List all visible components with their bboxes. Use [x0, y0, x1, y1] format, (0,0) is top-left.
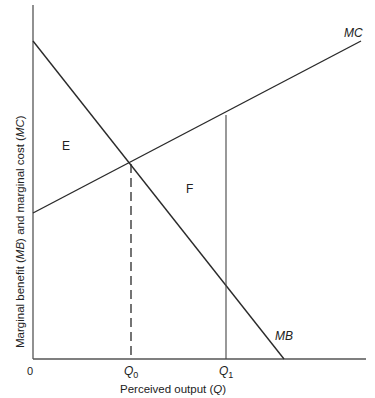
- region-e-label: E: [62, 139, 70, 153]
- q0-tick-label: Q0: [124, 364, 138, 380]
- mc-curve: [33, 41, 361, 213]
- mc-label: MC: [344, 26, 363, 40]
- y-axis-title: Marginal benefit (MB) and marginal cost …: [14, 115, 26, 348]
- origin-label: 0: [27, 365, 33, 377]
- q1-tick-label: Q1: [219, 364, 233, 380]
- marginal-analysis-diagram: MC MB E F 0 Q0 Q1 Perceived output (Q) M…: [0, 0, 375, 398]
- region-f-label: F: [186, 182, 193, 196]
- x-axis-title: Perceived output (Q): [120, 383, 226, 395]
- mb-label: MB: [275, 329, 293, 343]
- mb-curve: [33, 41, 284, 359]
